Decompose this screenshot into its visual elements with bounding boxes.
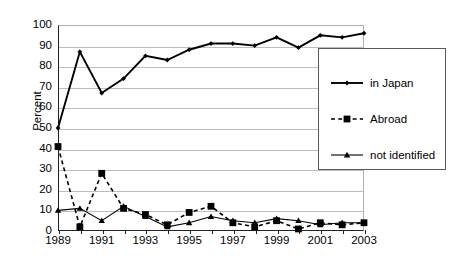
legend-label: in Japan [370, 77, 413, 89]
data-point-marker [77, 205, 83, 211]
x-axis-tick-label: 1999 [255, 234, 299, 247]
data-point-marker [56, 126, 61, 131]
data-point-marker [76, 223, 83, 230]
data-point-marker [344, 116, 351, 123]
x-axis-tick-label: 1991 [80, 234, 124, 247]
y-axis-tick-label: 100 [26, 19, 52, 31]
chart-legend: in JapanAbroadnot identified [318, 48, 446, 170]
x-axis-tick-labels: 19891991199319951997199920012003 [58, 234, 364, 250]
data-point-marker [209, 41, 214, 46]
data-point-marker [208, 213, 214, 219]
square-marker-icon [327, 112, 367, 126]
legend-label: not identified [370, 149, 435, 161]
data-point-marker [186, 209, 193, 216]
x-axis-tick-label: 1995 [167, 234, 211, 247]
triangle-marker-icon [327, 148, 367, 162]
data-point-marker [340, 35, 345, 40]
legend-item-not-identified[interactable]: not identified [327, 147, 435, 163]
y-axis-tick-label: 50 [26, 122, 52, 134]
data-point-marker [208, 203, 215, 210]
y-axis-tick-label: 20 [26, 184, 52, 196]
data-point-marker [99, 218, 105, 224]
data-point-marker [345, 81, 350, 86]
legend-item-abroad[interactable]: Abroad [327, 111, 407, 127]
data-point-marker [362, 31, 367, 36]
y-axis-tick-label: 70 [26, 81, 52, 93]
x-axis-tick-label: 1993 [123, 234, 167, 247]
y-axis-tick-label: 30 [26, 163, 52, 175]
data-point-marker [55, 143, 62, 150]
x-axis-tick-label: 2001 [298, 234, 342, 247]
data-point-marker [98, 170, 105, 177]
chart-title [0, 0, 449, 12]
chart-container: Percent 1009080706050403020100 198919911… [0, 0, 449, 262]
legend-item-in-japan[interactable]: in Japan [327, 75, 413, 91]
x-axis-tick-label: 2003 [342, 234, 386, 247]
data-point-marker [230, 41, 235, 46]
y-axis-tick-label: 40 [26, 143, 52, 155]
legend-label: Abroad [370, 113, 407, 125]
y-axis-tick-label: 10 [26, 204, 52, 216]
diamond-marker-icon [327, 76, 367, 90]
y-axis-tick-label: 90 [26, 40, 52, 52]
data-point-marker [295, 226, 302, 233]
y-axis-tick-label: 60 [26, 101, 52, 113]
y-axis-tick-label: 80 [26, 60, 52, 72]
x-axis-tick-label: 1997 [211, 234, 255, 247]
data-point-marker [252, 43, 257, 48]
y-axis-tick-labels: 1009080706050403020100 [22, 25, 52, 231]
x-axis-tick-label: 1989 [36, 234, 80, 247]
